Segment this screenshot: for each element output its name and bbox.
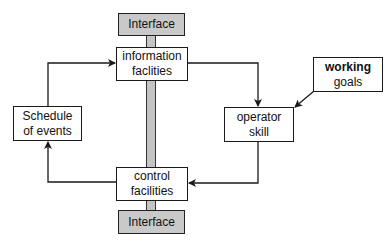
- operator-skill-box: operator skill: [224, 107, 294, 142]
- arrow-operator-to-control: [189, 141, 258, 183]
- operator-skill-line2: skill: [249, 125, 269, 140]
- arrow-schedule-to-information: [48, 63, 115, 106]
- information-facilities-box: information faclities: [116, 47, 188, 81]
- interface-top-box: Interface: [118, 13, 185, 36]
- schedule-of-events-box: Schedule of events: [13, 106, 82, 141]
- control-facilities-line1: control: [134, 169, 170, 184]
- working-goals-line2: goals: [334, 75, 363, 90]
- control-facilities-box: control facilities: [116, 167, 188, 201]
- schedule-line1: Schedule: [22, 109, 72, 124]
- diagram-canvas: Interface information faclities Schedule…: [0, 0, 391, 246]
- control-facilities-line2: facilities: [131, 184, 174, 199]
- interface-bottom-label: Interface: [128, 215, 175, 230]
- interface-top-label: Interface: [128, 17, 175, 32]
- working-goals-line1: working: [325, 60, 371, 75]
- information-facilities-line1: information: [122, 49, 181, 64]
- schedule-line2: of events: [23, 124, 72, 139]
- operator-skill-line1: operator: [237, 110, 282, 125]
- arrow-control-to-schedule: [48, 142, 116, 182]
- arrow-goals-to-operator: [295, 91, 314, 107]
- information-facilities-line2: faclities: [132, 64, 172, 79]
- arrow-information-to-operator: [188, 63, 258, 106]
- working-goals-box: working goals: [313, 57, 383, 92]
- interface-bottom-box: Interface: [118, 210, 185, 234]
